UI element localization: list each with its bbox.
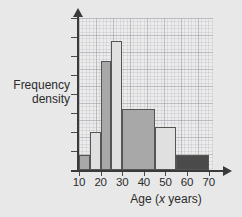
x-axis-title-suffix: years) [165, 192, 202, 206]
x-tick-label: 30 [110, 176, 134, 188]
histogram-figure: 10203040506070 Age (x years) Frequency d… [0, 0, 242, 217]
histogram-bar [101, 61, 112, 170]
y-axis-line [77, 16, 79, 172]
y-axis-title-line2: density [2, 92, 70, 106]
histogram-bar [176, 155, 208, 170]
x-axis-tick-labels: 10203040506070 [0, 176, 242, 190]
x-tick-label: 50 [153, 176, 177, 188]
x-tick-label: 60 [175, 176, 199, 188]
x-tick-label: 70 [197, 176, 221, 188]
y-axis-arrow-icon [73, 8, 83, 17]
x-axis-title: Age (x years) [96, 192, 236, 206]
bars-container [79, 18, 213, 170]
x-tick-label: 10 [67, 176, 91, 188]
histogram-bar [111, 41, 122, 170]
histogram-bar [90, 132, 101, 170]
y-axis-title: Frequency density [2, 78, 70, 106]
x-axis-arrow-icon [223, 166, 232, 176]
histogram-bar [155, 127, 177, 170]
x-axis-title-prefix: Age ( [130, 192, 159, 206]
histogram-bar [79, 155, 90, 170]
histogram-bar [122, 109, 154, 170]
x-axis-line [71, 170, 225, 172]
y-axis-title-line1: Frequency [2, 78, 70, 92]
x-tick-label: 20 [89, 176, 113, 188]
x-tick-label: 40 [132, 176, 156, 188]
